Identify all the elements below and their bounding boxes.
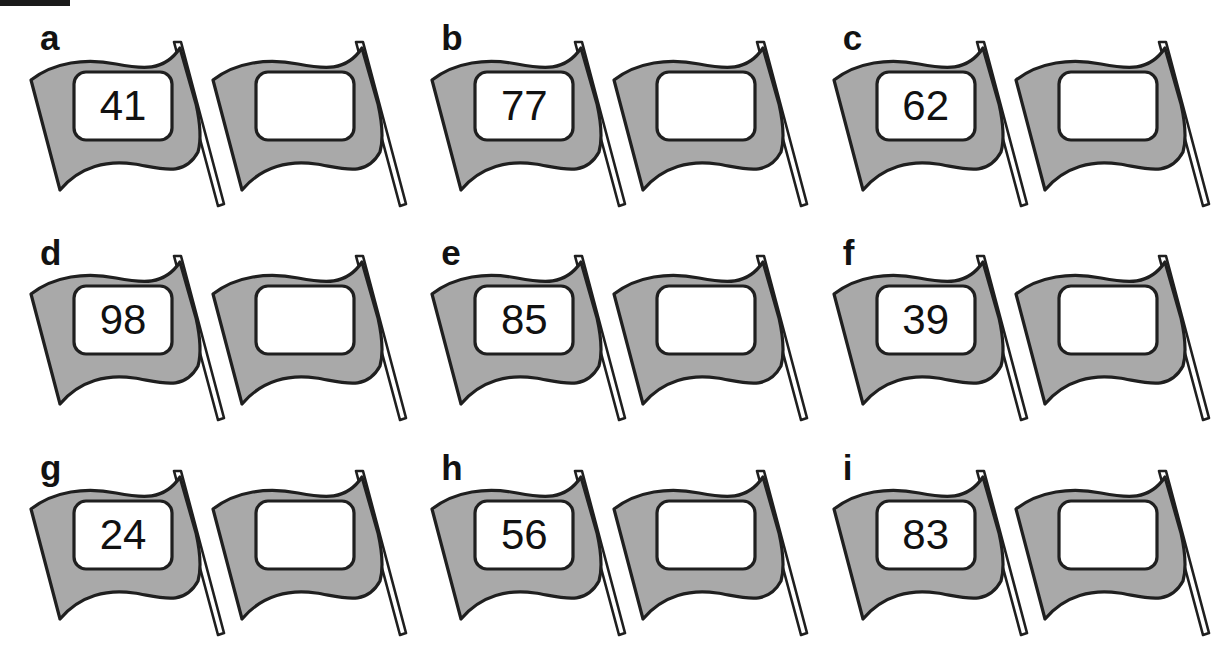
flag-right[interactable] (607, 447, 812, 643)
panel-label: h (441, 450, 462, 485)
panel-label: d (40, 235, 61, 270)
flag-right[interactable] (1009, 232, 1214, 428)
flag-inner-panel (475, 286, 573, 354)
flag-graphic (1016, 256, 1209, 420)
flag-inner-panel (877, 501, 975, 569)
flag-inner-panel (256, 286, 354, 354)
panel-label: c (843, 20, 862, 55)
flag-inner-panel (1059, 72, 1157, 140)
flag-right[interactable] (206, 447, 411, 643)
flag-graphic (834, 42, 1027, 206)
flag-pair: 24 (14, 447, 414, 643)
flag-graphic (614, 256, 807, 420)
flag-inner-panel (657, 501, 755, 569)
flag-inner-panel (877, 286, 975, 354)
panel-e: e 85 (401, 215, 802, 430)
flag-graphic (432, 42, 625, 206)
flag-pair: 41 (14, 18, 414, 214)
flag-graphic (31, 471, 224, 635)
flag-graphic (213, 42, 406, 206)
panel-a: a 41 (0, 0, 401, 215)
panel-label: f (843, 235, 854, 270)
flag-inner-panel (256, 72, 354, 140)
flag-right[interactable] (1009, 447, 1214, 643)
panel-label: a (40, 20, 59, 55)
flag-graphic (213, 471, 406, 635)
flag-graphic (432, 256, 625, 420)
flag-graphic (614, 42, 807, 206)
flag-inner-panel (475, 72, 573, 140)
flag-pair: 77 (415, 18, 815, 214)
flag-graphic (834, 256, 1027, 420)
panel-h: h 56 (401, 430, 802, 645)
flag-graphic (31, 256, 224, 420)
flag-pair: 85 (415, 232, 815, 428)
panel-b: b 77 (401, 0, 802, 215)
flag-inner-panel (877, 72, 975, 140)
flag-graphic (432, 471, 625, 635)
panel-i: i 83 (803, 430, 1204, 645)
flag-graphic (834, 471, 1027, 635)
panel-g: g 24 (0, 430, 401, 645)
flag-right[interactable] (1009, 18, 1214, 214)
flag-inner-panel (74, 286, 172, 354)
flag-graphic (1016, 42, 1209, 206)
flag-right[interactable] (206, 232, 411, 428)
panel-c: c 62 (803, 0, 1204, 215)
flag-pair: 83 (817, 447, 1215, 643)
panel-label: g (40, 450, 61, 485)
flag-inner-panel (657, 286, 755, 354)
flag-inner-panel (657, 72, 755, 140)
flag-graphic (213, 256, 406, 420)
panel-label: e (441, 235, 460, 270)
flag-pair: 98 (14, 232, 414, 428)
flag-graphic (614, 471, 807, 635)
flag-right[interactable] (607, 232, 812, 428)
flag-inner-panel (1059, 501, 1157, 569)
flag-left[interactable]: 39 (827, 232, 1032, 428)
flag-inner-panel (74, 501, 172, 569)
flag-pair: 39 (817, 232, 1215, 428)
panel-d: d 98 (0, 215, 401, 430)
panel-f: f 39 (803, 215, 1204, 430)
flag-graphic (31, 42, 224, 206)
flag-left[interactable]: 83 (827, 447, 1032, 643)
flag-pair: 62 (817, 18, 1215, 214)
flag-inner-panel (475, 501, 573, 569)
flag-inner-panel (256, 501, 354, 569)
flag-graphic (1016, 471, 1209, 635)
flag-inner-panel (74, 72, 172, 140)
panel-label: i (843, 450, 852, 485)
flag-right[interactable] (607, 18, 812, 214)
flag-inner-panel (1059, 286, 1157, 354)
flag-right[interactable] (206, 18, 411, 214)
flag-pair: 56 (415, 447, 815, 643)
panel-label: b (441, 20, 462, 55)
